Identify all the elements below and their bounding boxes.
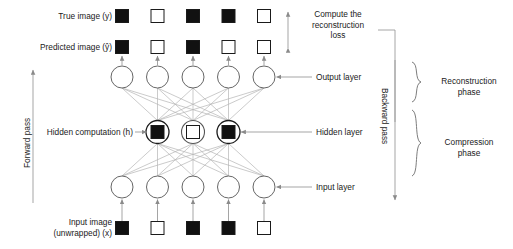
input-image-pixel-row	[116, 222, 271, 235]
output-layer-label: Output layer	[316, 72, 361, 83]
output-layer-nodes	[111, 66, 275, 88]
compression-phase-label-line2: phase	[428, 148, 510, 159]
reconstruction-phase-label-line1: Reconstruction	[428, 76, 510, 87]
input-pixel-empty	[151, 222, 164, 235]
hidden-layer-nodes	[146, 121, 240, 144]
output-node	[147, 66, 169, 88]
input-pixel-empty	[258, 222, 271, 235]
input-layer-label: Input layer	[316, 182, 355, 193]
arrows-output-to-predicted	[122, 56, 264, 66]
connections-input-to-hidden	[122, 144, 264, 177]
true-image-label: True image (y)	[0, 11, 112, 22]
true-pixel-empty	[151, 10, 164, 23]
predicted-image-pixel-row	[116, 41, 271, 54]
reconstruction-phase-label-line2: phase	[428, 87, 510, 98]
forward-pass-label: Forward pass	[22, 118, 33, 168]
diagram-canvas	[0, 0, 513, 249]
arrows-input-pixel-to-node	[122, 200, 264, 222]
compression-phase-bracket	[412, 110, 421, 176]
input-node	[182, 176, 204, 198]
compute-loss-label-line3: loss	[298, 30, 378, 41]
backward-pass-label: Backward pass	[380, 88, 391, 144]
true-pixel-filled	[222, 10, 235, 23]
input-pixel-filled	[116, 222, 129, 235]
input-node	[253, 176, 275, 198]
output-node	[111, 66, 133, 88]
predicted-pixel-empty	[151, 41, 164, 54]
predicted-pixel-filled	[187, 41, 200, 54]
input-layer-nodes	[111, 176, 275, 198]
input-pixel-filled	[222, 222, 235, 235]
output-node	[182, 66, 204, 88]
true-pixel-filled	[187, 10, 200, 23]
true-pixel-empty	[258, 10, 271, 23]
hidden-computation-label: Hidden computation (h)	[0, 127, 133, 138]
reconstruction-phase-bracket	[412, 62, 421, 102]
input-image-label-line2: (unwrapped) (x)	[0, 228, 112, 239]
true-pixel-filled	[116, 10, 129, 23]
output-node	[218, 66, 240, 88]
predicted-pixel-filled	[116, 41, 129, 54]
true-image-pixel-row	[116, 10, 271, 23]
compute-loss-label-line2: reconstruction	[298, 20, 378, 31]
predicted-image-label: Predicted image (ŷ)	[0, 42, 112, 53]
hidden-pixel-empty	[187, 126, 200, 139]
input-image-label-line1: Input image	[0, 217, 112, 228]
compute-loss-label-line1: Compute the	[298, 9, 378, 20]
input-node	[147, 176, 169, 198]
hidden-layer-label: Hidden layer	[316, 127, 363, 138]
output-node	[253, 66, 275, 88]
compression-phase-label-line1: Compression	[428, 137, 510, 148]
autoencoder-diagram: True image (y) Predicted image (ŷ) Hidde…	[0, 0, 513, 249]
connections-hidden-to-output	[122, 88, 264, 121]
predicted-pixel-empty	[222, 41, 235, 54]
predicted-pixel-empty	[258, 41, 271, 54]
hidden-pixel-filled	[222, 126, 235, 139]
hidden-pixel-filled	[151, 126, 164, 139]
input-node	[218, 176, 240, 198]
input-pixel-filled	[187, 222, 200, 235]
input-node	[111, 176, 133, 198]
